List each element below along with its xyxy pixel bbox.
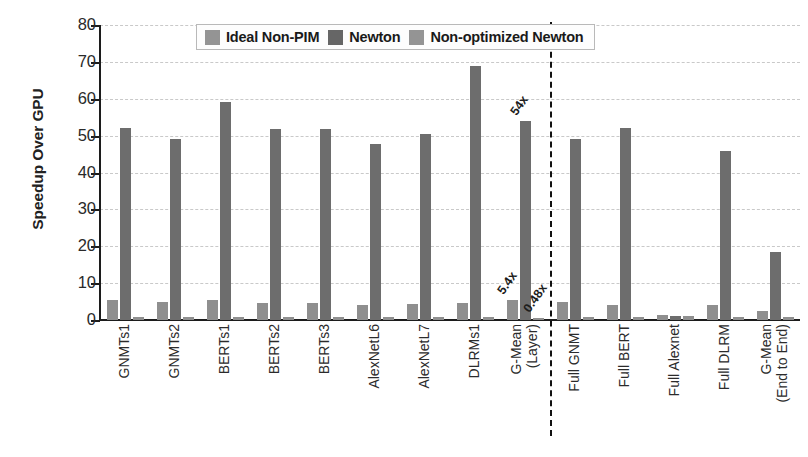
legend-swatch-icon	[205, 30, 220, 45]
legend-label: Newton	[349, 29, 400, 45]
legend-swatch-icon	[409, 30, 424, 45]
bar	[133, 317, 144, 320]
y-tick-label: 60	[36, 89, 96, 108]
x-tick-label: BERTs3	[317, 324, 333, 374]
bar-annotation: 54x	[508, 93, 531, 118]
bar-group	[600, 25, 650, 320]
bar	[157, 302, 168, 320]
x-tick-cell: GNMTs2	[150, 322, 200, 454]
x-tick-label: DLRMs1	[467, 324, 483, 378]
bar	[207, 300, 218, 320]
x-tick-label: GNMTs1	[117, 324, 133, 378]
legend-swatch-icon	[328, 30, 343, 45]
x-tick-label: AlexNetL6	[367, 324, 383, 389]
bar	[557, 302, 568, 320]
x-tick-cell: Full GNMT	[550, 322, 600, 454]
bar	[583, 317, 594, 320]
y-tick-label: 80	[36, 15, 96, 34]
bar	[333, 317, 344, 320]
bar	[633, 317, 644, 320]
x-tick-cell: Full BERT	[600, 322, 650, 454]
bar-group	[300, 25, 350, 320]
bar	[657, 315, 668, 320]
x-tick-label: Full GNMT	[567, 324, 583, 392]
bar	[620, 128, 631, 320]
bar	[107, 300, 118, 320]
x-tick-label: Full BERT	[617, 324, 633, 388]
legend-label: Non-optimized Newton	[430, 29, 583, 45]
bar	[357, 305, 368, 320]
x-tick-cell: BERTs2	[250, 322, 300, 454]
legend-item: Non-optimized Newton	[409, 29, 583, 45]
bar	[757, 311, 768, 320]
y-tick-label: 40	[36, 163, 96, 182]
bar-group	[250, 25, 300, 320]
legend-item: Ideal Non-PIM	[205, 29, 319, 45]
x-tick-label: BERTs2	[267, 324, 283, 374]
x-tick-cell: G-Mean(Layer)	[500, 322, 550, 454]
bar	[770, 252, 781, 320]
chart-figure: Speedup Over GPU 01020304050607080 5.4x5…	[0, 0, 808, 457]
y-tick-label: 50	[36, 126, 96, 145]
x-tick-label-line2: (Layer)	[525, 324, 541, 375]
bar-group	[650, 25, 700, 320]
y-tick-label: 30	[36, 199, 96, 218]
legend-item: Newton	[328, 29, 400, 45]
bar	[257, 303, 268, 320]
y-tick-label: 0	[36, 310, 96, 329]
chart-legend: Ideal Non-PIMNewtonNon-optimized Newton	[196, 24, 595, 50]
bar-group	[100, 25, 150, 320]
bar	[383, 317, 394, 320]
bar-group	[450, 25, 500, 320]
bar	[457, 303, 468, 320]
x-tick-cell: G-Mean(End to End)	[750, 322, 800, 454]
bar-group	[200, 25, 250, 320]
bar	[170, 139, 181, 320]
bar	[520, 121, 531, 320]
bar	[270, 129, 281, 320]
x-tick-label-line2: (End to End)	[775, 324, 791, 403]
bar	[707, 305, 718, 320]
bar	[220, 102, 231, 320]
bar	[370, 144, 381, 320]
x-tick-label: BERTs1	[217, 324, 233, 374]
bar	[683, 316, 694, 320]
x-tick-label: Full Alexnet	[667, 324, 683, 396]
x-tick-label: Full DLRM	[717, 324, 733, 390]
plot-area: 01020304050607080 5.4x54x0.48x	[100, 25, 800, 320]
x-tick-cell: GNMTs1	[100, 322, 150, 454]
bar	[433, 317, 444, 320]
bar	[733, 317, 744, 320]
x-tick-cell: Full DLRM	[700, 322, 750, 454]
bar-group	[700, 25, 750, 320]
x-tick-label: AlexNetL7	[417, 324, 433, 389]
x-tick-label: G-Mean(Layer)	[509, 324, 540, 375]
x-tick-label: G-Mean(End to End)	[759, 324, 790, 403]
x-tick-cell: AlexNetL6	[350, 322, 400, 454]
x-tick-label: GNMTs2	[167, 324, 183, 378]
y-tick-label: 20	[36, 236, 96, 255]
x-tick-cell: DLRMs1	[450, 322, 500, 454]
x-tick-cell: BERTs3	[300, 322, 350, 454]
legend-label: Ideal Non-PIM	[226, 29, 319, 45]
bar	[670, 316, 681, 320]
x-axis-tick-labels: GNMTs1GNMTs2BERTs1BERTs2BERTs3AlexNetL6A…	[100, 322, 800, 454]
bar-group	[550, 25, 600, 320]
bar-group	[150, 25, 200, 320]
x-tick-cell: AlexNetL7	[400, 322, 450, 454]
bar	[233, 317, 244, 320]
x-tick-cell: Full Alexnet	[650, 322, 700, 454]
bar-group: 5.4x54x0.48x	[500, 25, 550, 320]
bar-group	[350, 25, 400, 320]
bar	[307, 303, 318, 320]
y-tick-label: 70	[36, 52, 96, 71]
bar	[407, 304, 418, 320]
bar	[120, 128, 131, 320]
x-tick-cell: BERTs1	[200, 322, 250, 454]
y-tick-label: 10	[36, 273, 96, 292]
bar	[720, 151, 731, 320]
bar	[183, 317, 194, 320]
bar	[533, 318, 544, 320]
bar	[470, 66, 481, 320]
bar	[607, 305, 618, 320]
